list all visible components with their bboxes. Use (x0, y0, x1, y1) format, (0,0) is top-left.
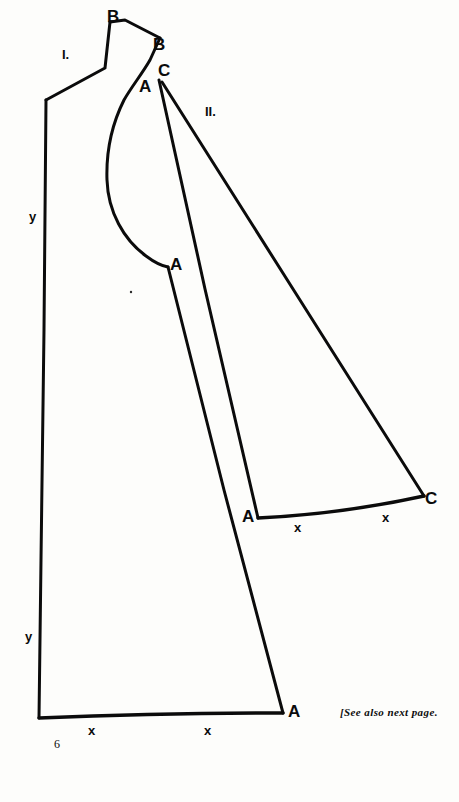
piece-1-neck-edge (46, 22, 110, 100)
notch-piece2-hem-right: x (382, 511, 389, 524)
piece-1-shape (39, 20, 283, 718)
notch-piece1-hem-left: x (88, 724, 95, 737)
piece-2-right-edge (162, 82, 424, 496)
point-b-top: B (107, 8, 119, 25)
piece-1-label: I. (62, 48, 69, 61)
folio-number: 6 (54, 738, 60, 750)
piece-2-hem-edge (258, 496, 424, 518)
piece-1-registration-dot (130, 291, 132, 293)
point-a-hem-right: A (288, 703, 300, 720)
notch-piece1-hem-right: x (204, 724, 211, 737)
point-c-gore-right: C (425, 490, 437, 507)
piece-1-left-edge (39, 100, 46, 718)
point-a-gore-left: A (242, 508, 254, 525)
notch-piece2-hem-left: x (294, 521, 301, 534)
grainline-y-lower: y (25, 630, 32, 643)
grainline-y-upper: y (29, 210, 36, 223)
piece-2-left-edge (159, 80, 258, 518)
point-b-strap-end: B (153, 36, 165, 53)
piece-2-shape (159, 80, 424, 518)
pattern-diagram-svg (0, 0, 459, 802)
piece-2-label: II. (205, 105, 216, 118)
piece-1-right-side-seam (168, 267, 283, 713)
pattern-diagram-page: B B C A A A C A I. II. x x x x y y 6 [Se… (0, 0, 459, 802)
point-a-apex: A (139, 78, 151, 95)
point-c-apex: C (158, 62, 170, 79)
piece-1-hem-edge (39, 713, 283, 718)
point-a-underarm: A (170, 256, 182, 273)
see-also-next-page-note: [See also next page. (340, 707, 438, 718)
